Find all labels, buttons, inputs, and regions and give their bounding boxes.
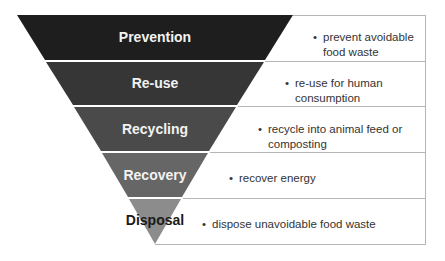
bullet-icon: • [313, 30, 323, 45]
level-label-recovery: Recovery [55, 167, 255, 183]
bullet-icon: • [202, 217, 212, 232]
bullet-icon: • [258, 122, 268, 137]
description-line: prevent avoidable [323, 31, 414, 43]
level-description-re-use: •re-use for human consumption [285, 76, 383, 106]
level-label-prevention: Prevention [55, 29, 255, 45]
description-line: re-use for human [295, 77, 383, 89]
level-label-re-use: Re-use [55, 75, 255, 91]
level-description-disposal: •dispose unavoidable food waste [202, 217, 376, 232]
level-label-recycling: Recycling [55, 121, 255, 137]
description-line: food waste [323, 46, 379, 58]
level-description-recycling: •recycle into animal feed or composting [258, 122, 402, 152]
level-description-prevention: •prevent avoidable food waste [313, 30, 414, 60]
description-line: recycle into animal feed or [268, 123, 402, 135]
level-description-recovery: •recover energy [229, 171, 316, 186]
description-line: dispose unavoidable food waste [212, 218, 376, 230]
bullet-icon: • [285, 76, 295, 91]
description-line: recover energy [239, 172, 316, 184]
description-line: consumption [295, 92, 360, 104]
description-line: composting [268, 138, 327, 150]
bullet-icon: • [229, 171, 239, 186]
